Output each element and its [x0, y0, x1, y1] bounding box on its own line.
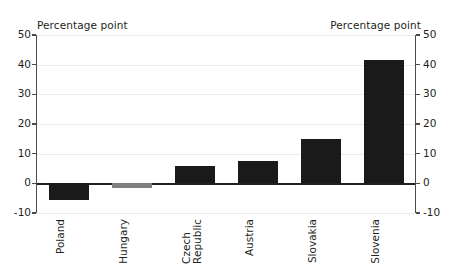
left-axis-tick-label: 50	[18, 29, 31, 40]
left-axis-tick	[32, 212, 36, 213]
right-axis-tick-label: 0	[423, 177, 430, 188]
left-axis-tick	[32, 64, 36, 65]
right-axis-tick	[416, 94, 420, 95]
right-axis-tick-label: 30	[423, 88, 436, 99]
right-axis-tick	[416, 34, 420, 35]
right-axis-tick-label: 20	[423, 118, 436, 129]
category-label: Czech Republic	[181, 219, 203, 264]
bar	[301, 139, 341, 184]
gridline	[37, 65, 415, 66]
left-axis-tick-label: 40	[18, 59, 31, 70]
gridline	[37, 213, 415, 214]
left-axis-tick-label: 30	[18, 88, 31, 99]
left-axis-tick	[32, 123, 36, 124]
right-axis-tick-label: 50	[423, 29, 436, 40]
left-axis-tick	[32, 34, 36, 35]
right-axis-tick	[416, 212, 420, 213]
bar	[175, 166, 215, 183]
right-axis-tick	[416, 153, 420, 154]
gridline	[37, 94, 415, 95]
right-axis-tick-label: 40	[423, 59, 436, 70]
right-axis-tick	[416, 183, 420, 184]
left-axis-tick	[32, 94, 36, 95]
left-axis-tick-label: 10	[18, 148, 31, 159]
bar	[364, 60, 404, 183]
category-label: Slovakia	[307, 219, 318, 263]
right-axis-unit-label: Percentage point	[330, 19, 421, 31]
category-label: Hungary	[118, 219, 129, 264]
right-axis-tick-label: -10	[423, 207, 440, 218]
right-axis-tick	[416, 123, 420, 124]
bar-chart: Percentage point Percentage point 505040…	[0, 0, 452, 279]
category-label: Poland	[55, 219, 66, 254]
bar	[49, 183, 89, 199]
category-label: Slovenia	[370, 219, 381, 264]
left-axis-unit-label: Percentage point	[37, 19, 128, 31]
bar	[238, 161, 278, 183]
zero-baseline	[37, 183, 415, 185]
left-axis-tick	[32, 183, 36, 184]
gridline	[37, 154, 415, 155]
left-axis-tick-label: 20	[18, 118, 31, 129]
left-axis-tick-label: -10	[14, 207, 31, 218]
right-axis-tick	[416, 64, 420, 65]
left-axis-tick-label: 0	[24, 177, 31, 188]
bar	[112, 183, 152, 187]
left-axis-tick	[32, 153, 36, 154]
gridline	[37, 124, 415, 125]
plot-area	[37, 35, 415, 213]
category-label: Austria	[244, 219, 255, 256]
gridline	[37, 35, 415, 36]
right-axis-tick-label: 10	[423, 148, 436, 159]
